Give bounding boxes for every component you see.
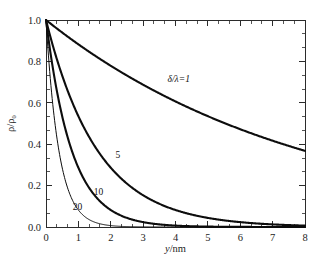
x-axis-title: y/nm	[164, 243, 186, 254]
x-tick-label: 7	[270, 232, 275, 243]
x-tick-label: 2	[108, 232, 113, 243]
curve-label-3: 20	[73, 202, 83, 212]
x-tick-label: 4	[173, 232, 179, 243]
figure-container: 012345678 0.00.20.40.60.81.0 δ/λ=151020 …	[0, 0, 322, 263]
x-tick-label: 8	[302, 232, 307, 243]
x-tick-label: 1	[76, 232, 81, 243]
exponential-decay-chart: 012345678 0.00.20.40.60.81.0 δ/λ=151020 …	[0, 0, 322, 263]
x-tick-label: 6	[238, 232, 243, 243]
x-tick-label: 0	[43, 232, 48, 243]
y-tick-label: 0.6	[28, 98, 41, 109]
y-tick-label: 0.4	[28, 139, 42, 150]
curve-label-0: δ/λ=1	[168, 74, 190, 84]
y-tick-label: 0.2	[28, 180, 41, 191]
curve-label-2: 10	[94, 187, 104, 197]
y-tick-label: 0.0	[28, 222, 41, 233]
y-tick-label: 1.0	[28, 15, 41, 26]
y-tick-label: 0.8	[28, 56, 41, 67]
x-tick-label: 3	[141, 232, 146, 243]
plot-area-background	[46, 20, 305, 227]
curve-label-1: 5	[115, 150, 120, 160]
x-tick-label: 5	[205, 232, 210, 243]
y-axis-title: ρ/ρ₀	[5, 115, 16, 132]
